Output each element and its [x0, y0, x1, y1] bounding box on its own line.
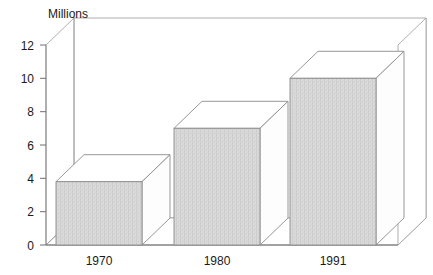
- category-label-1980: 1980: [204, 254, 231, 268]
- y-axis: 0 2 4 6 8 10 12: [21, 39, 46, 253]
- y-tick-label-8: 8: [27, 105, 34, 119]
- y-tick-label-12: 12: [21, 39, 35, 53]
- y-axis-ticks: [40, 45, 46, 245]
- bar-group-1970[interactable]: [56, 155, 170, 245]
- y-tick-label-4: 4: [27, 172, 34, 186]
- bar-group-1980[interactable]: [174, 101, 288, 245]
- bar-group-1991[interactable]: [290, 51, 404, 245]
- bar-side-face-1991: [376, 51, 404, 245]
- x-axis-category-labels: 1970 1980 1991: [86, 254, 347, 268]
- bar-front-face-1970: [56, 182, 142, 245]
- y-axis-tick-labels: 0 2 4 6 8 10 12: [21, 39, 35, 253]
- plot-top-left-depth-edge: [46, 18, 74, 45]
- y-tick-label-0: 0: [27, 239, 34, 253]
- y-tick-label-2: 2: [27, 205, 34, 219]
- y-tick-label-6: 6: [27, 139, 34, 153]
- y-tick-label-10: 10: [21, 72, 35, 86]
- category-label-1970: 1970: [86, 254, 113, 268]
- category-label-1991: 1991: [320, 254, 347, 268]
- bar-front-face-1991: [290, 78, 376, 245]
- y-axis-unit-label: Millions: [48, 7, 88, 21]
- bar-front-face-1980: [174, 128, 260, 245]
- chart-container: 0 2 4 6 8 10 12 Millions: [0, 0, 433, 275]
- bar-chart-3d: 0 2 4 6 8 10 12 Millions: [0, 0, 433, 275]
